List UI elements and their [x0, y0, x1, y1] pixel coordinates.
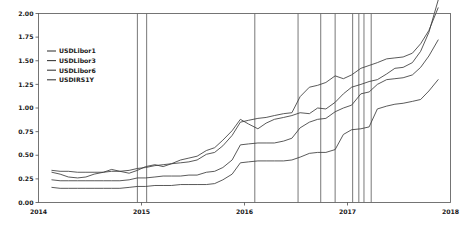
legend-label-USDLibor6: USDLibor6 [59, 67, 96, 74]
y-tick-label-2: 0.50 [18, 151, 34, 158]
plot-frame [39, 14, 451, 203]
y-tick-label-5: 1.25 [18, 81, 33, 88]
chart-figure: 0.000.250.500.751.001.251.501.752.00 201… [0, 0, 466, 238]
y-tick-label-8: 2.00 [18, 10, 34, 17]
legend: USDLibor1USDLibor3USDLibor6USDIRS1Y [47, 47, 96, 83]
legend-label-USDLibor1: USDLibor1 [59, 47, 96, 54]
y-tick-label-6: 1.50 [18, 57, 34, 64]
y-tick-label-7: 1.75 [18, 33, 33, 40]
x-tick-label-0: 2014 [30, 208, 48, 215]
x-tick-label-3: 2017 [339, 208, 356, 215]
legend-label-USDLibor3: USDLibor3 [59, 57, 96, 64]
series-line-USDLibor1 [52, 80, 438, 189]
series-line-USDIRS1Y [52, 0, 438, 178]
y-axis-ticks: 0.000.250.500.751.001.251.501.752.00 [18, 10, 38, 206]
x-axis-ticks: 20142015201620172018 [30, 203, 459, 215]
event-lines-group [137, 14, 371, 203]
x-tick-label-2: 2016 [236, 208, 253, 215]
legend-label-USDIRS1Y: USDIRS1Y [59, 76, 94, 83]
series-line-USDLibor6 [52, 8, 438, 172]
line-chart-canvas: 0.000.250.500.751.001.251.501.752.00 201… [0, 0, 466, 238]
y-tick-label-0: 0.00 [18, 199, 34, 206]
y-tick-label-4: 1.00 [18, 104, 34, 111]
x-tick-label-1: 2015 [133, 208, 150, 215]
series-lines-group [52, 0, 438, 188]
y-tick-label-3: 0.75 [18, 128, 33, 135]
x-tick-label-4: 2018 [442, 208, 459, 215]
y-tick-label-1: 0.25 [18, 175, 33, 182]
